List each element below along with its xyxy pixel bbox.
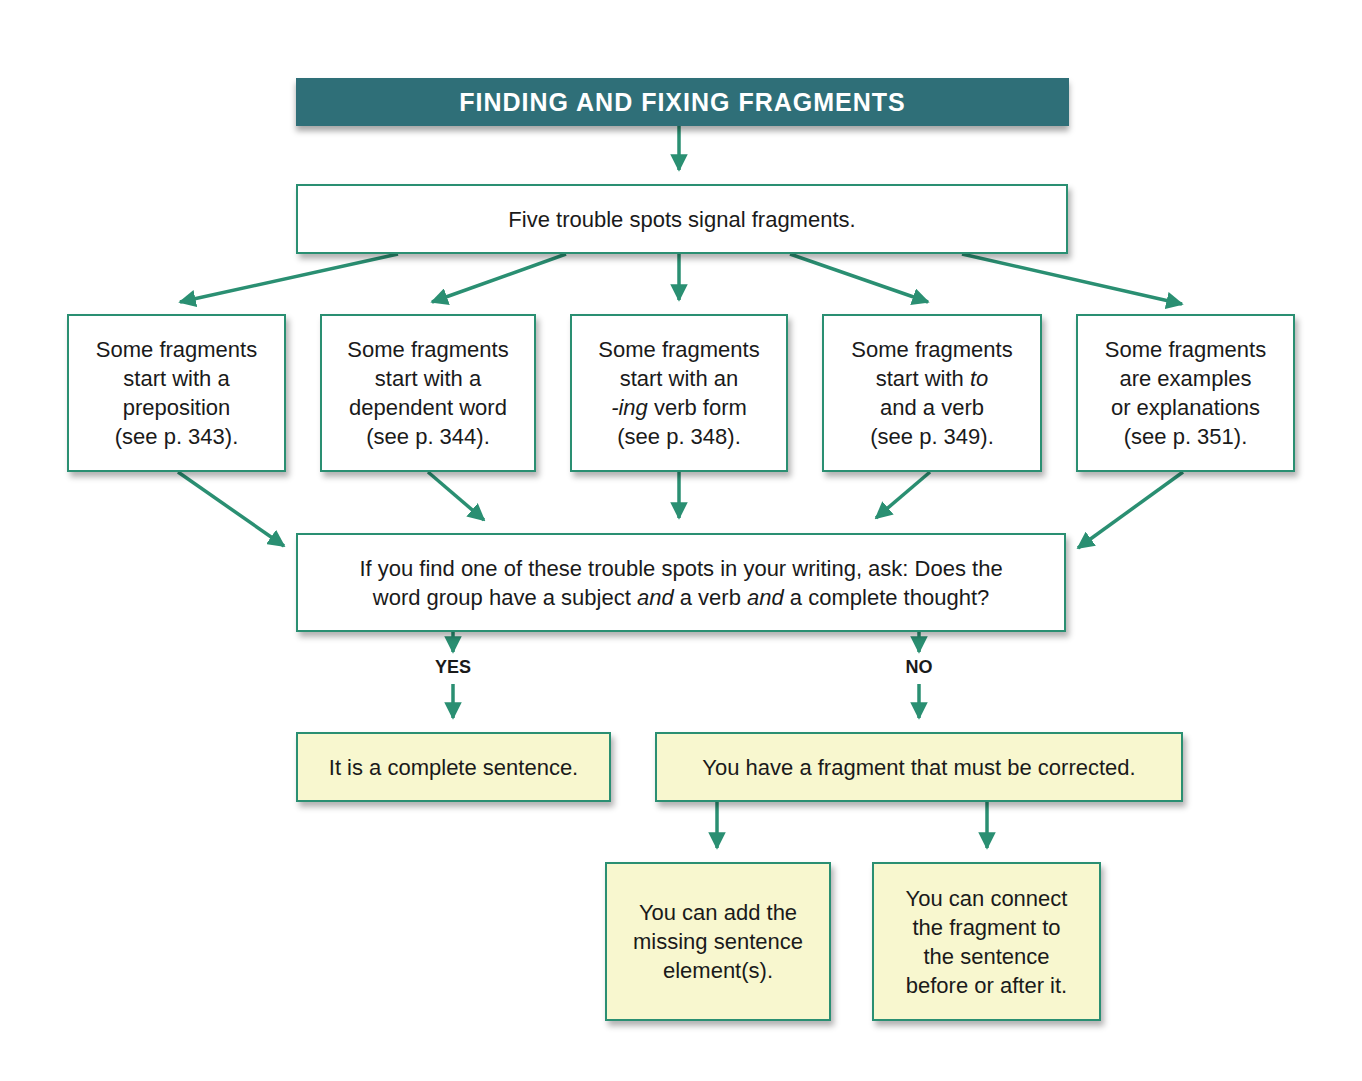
- italic-text: -ing: [611, 395, 648, 420]
- no-result-box: You have a fragment that must be correct…: [655, 732, 1183, 802]
- text-line: -ing verb form: [598, 393, 759, 422]
- fix-add-element-box: You can add the missing sentence element…: [605, 862, 831, 1021]
- page-reference: (see p. 344).: [347, 422, 508, 451]
- yes-branch-label: YES: [435, 657, 471, 678]
- trouble-spot-examples: Some fragments are examples or explanati…: [1076, 314, 1295, 472]
- text-line: You can connect: [906, 884, 1068, 913]
- text-line: before or after it.: [906, 971, 1068, 1000]
- text-line: dependent word: [347, 393, 508, 422]
- page-reference: (see p. 343).: [96, 422, 257, 451]
- text-fragment: verb form: [648, 395, 747, 420]
- page-reference: (see p. 349).: [851, 422, 1012, 451]
- page-reference: (see p. 351).: [1105, 422, 1266, 451]
- italic-text: and: [747, 585, 784, 610]
- text-line: You can add the: [633, 898, 803, 927]
- page-reference: (see p. 348).: [598, 422, 759, 451]
- text-line: and a verb: [851, 393, 1012, 422]
- text-fragment: a verb: [674, 585, 747, 610]
- text-fragment: word group have a subject: [373, 585, 637, 610]
- text-line: start with an: [598, 364, 759, 393]
- text-line: Some fragments: [1105, 335, 1266, 364]
- text-line: start with a: [347, 364, 508, 393]
- diagram-title: FINDING AND FIXING FRAGMENTS: [459, 88, 906, 117]
- italic-text: to: [970, 366, 988, 391]
- text-line: missing sentence: [633, 927, 803, 956]
- trouble-spot-preposition: Some fragments start with a preposition …: [67, 314, 286, 472]
- text-fragment: start with: [876, 366, 970, 391]
- text-line: start with a: [96, 364, 257, 393]
- yes-result-box: It is a complete sentence.: [296, 732, 611, 802]
- text-line: Some fragments: [347, 335, 508, 364]
- text-line: the fragment to: [906, 913, 1068, 942]
- intro-box: Five trouble spots signal fragments.: [296, 184, 1068, 254]
- text-line: start with to: [851, 364, 1012, 393]
- text-line: are examples: [1105, 364, 1266, 393]
- text-line: If you find one of these trouble spots i…: [359, 554, 1002, 583]
- no-branch-label: NO: [906, 657, 933, 678]
- text-line: Some fragments: [851, 335, 1012, 364]
- question-box: If you find one of these trouble spots i…: [296, 533, 1066, 632]
- trouble-spot-to-verb: Some fragments start with to and a verb …: [822, 314, 1042, 472]
- text-line: preposition: [96, 393, 257, 422]
- text-line: or explanations: [1105, 393, 1266, 422]
- italic-text: and: [637, 585, 674, 610]
- intro-text: Five trouble spots signal fragments.: [508, 205, 855, 234]
- text-line: Some fragments: [96, 335, 257, 364]
- diagram-title-banner: FINDING AND FIXING FRAGMENTS: [296, 78, 1069, 126]
- trouble-spot-dependent-word: Some fragments start with a dependent wo…: [320, 314, 536, 472]
- text-line: the sentence: [906, 942, 1068, 971]
- text-line: word group have a subject and a verb and…: [359, 583, 1002, 612]
- text-line: element(s).: [633, 956, 803, 985]
- fix-connect-box: You can connect the fragment to the sent…: [872, 862, 1101, 1021]
- trouble-spot-ing-verb: Some fragments start with an -ing verb f…: [570, 314, 788, 472]
- no-result-text: You have a fragment that must be correct…: [702, 753, 1135, 782]
- yes-result-text: It is a complete sentence.: [329, 753, 578, 782]
- text-line: Some fragments: [598, 335, 759, 364]
- text-fragment: a complete thought?: [784, 585, 989, 610]
